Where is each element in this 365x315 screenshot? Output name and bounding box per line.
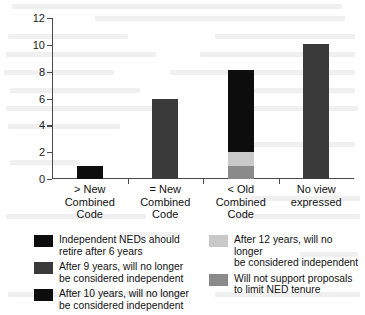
bar-stack — [303, 44, 329, 180]
legend-swatch-icon — [34, 289, 53, 301]
x-axis-category-label: No view expressed — [272, 183, 360, 208]
legend-item: After 12 years, will no longer be consid… — [209, 234, 360, 269]
bar-segment — [152, 99, 178, 180]
y-tick-label: 4 — [39, 120, 45, 131]
y-axis-line — [52, 18, 53, 179]
legend-column-left: Independent NEDs ahould retire after 6 y… — [34, 234, 195, 312]
y-tick-label: 8 — [39, 66, 45, 77]
y-tick-mark — [47, 18, 52, 19]
y-tick-mark — [47, 99, 52, 100]
y-tick-label: 12 — [33, 13, 45, 24]
bar-segment — [77, 166, 103, 179]
bar-stack — [77, 166, 103, 179]
legend-item: After 10 years, will no longer be consid… — [34, 288, 195, 311]
legend-swatch-icon — [209, 274, 228, 286]
legend-swatch-icon — [209, 235, 228, 247]
legend-label: After 10 years, will no longer be consid… — [59, 288, 189, 311]
y-tick-mark — [47, 72, 52, 73]
y-tick-label: 6 — [39, 93, 45, 104]
y-tick-mark — [47, 45, 52, 46]
legend-label: After 9 years, will no longer be conside… — [59, 261, 183, 284]
legend-item: Will not support proposals to limit NED … — [209, 273, 360, 296]
bar-segment — [228, 70, 254, 152]
y-tick-label: 0 — [39, 174, 45, 185]
plot-area: 024681012 — [52, 18, 354, 179]
y-tick-mark — [47, 179, 52, 180]
legend-item: Independent NEDs ahould retire after 6 y… — [34, 234, 195, 257]
bar-segment — [228, 152, 254, 165]
bar-segment — [303, 44, 329, 180]
legend-swatch-icon — [34, 235, 53, 247]
bar-segment — [228, 166, 254, 179]
bar-stack — [228, 70, 254, 179]
y-tick-label: 2 — [39, 147, 45, 158]
y-tick-mark — [47, 125, 52, 126]
legend-item: After 9 years, will no longer be conside… — [34, 261, 195, 284]
legend-swatch-icon — [34, 262, 53, 274]
bar-stack — [152, 99, 178, 180]
chart-legend: Independent NEDs ahould retire after 6 y… — [34, 234, 360, 312]
legend-label: After 12 years, will no longer be consid… — [234, 234, 360, 269]
y-tick-mark — [47, 152, 52, 153]
bar-chart: Number of Institutions 024681012 > New C… — [0, 0, 365, 315]
legend-label: Will not support proposals to limit NED … — [234, 273, 352, 296]
legend-column-right: After 12 years, will no longer be consid… — [209, 234, 360, 312]
y-tick-label: 10 — [33, 39, 45, 50]
legend-label: Independent NEDs ahould retire after 6 y… — [59, 234, 180, 257]
